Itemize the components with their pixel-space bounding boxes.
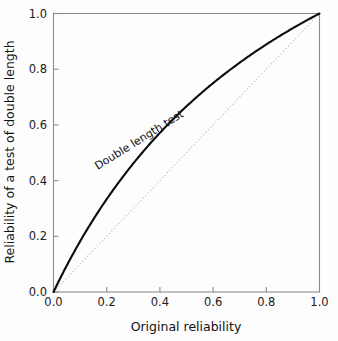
x-tick-label: 0.6 [204,295,222,309]
chart-figure: 0.0 0.2 0.4 0.6 0.8 1.0 0.0 0.2 0.4 0.6 … [0,0,338,341]
y-tick-label: 0.6 [29,118,47,132]
y-tick-label: 0.0 [29,285,47,299]
y-tick-label: 0.2 [29,229,47,243]
y-tick-label: 0.8 [29,62,47,76]
x-tick-label: 0.2 [98,295,116,309]
y-tick-label: 0.4 [29,174,47,188]
x-tick-label: 0.8 [257,295,275,309]
x-tick-labels: 0.0 0.2 0.4 0.6 0.8 1.0 [44,295,328,309]
x-axis-ticks [54,287,320,292]
y-tick-label: 1.0 [29,7,47,21]
y-axis-title: Reliability of a test of double length [2,40,17,263]
plot-area: 0.0 0.2 0.4 0.6 0.8 1.0 0.0 0.2 0.4 0.6 … [0,0,338,341]
curve-annotation-label: Double length test [92,107,186,173]
y-tick-labels: 0.0 0.2 0.4 0.6 0.8 1.0 [29,7,47,300]
y-axis-ticks [54,14,59,293]
x-tick-label: 1.0 [310,295,328,309]
x-axis-title: Original reliability [131,319,242,334]
x-tick-label: 0.0 [44,295,62,309]
identity-reference-line [54,14,320,293]
x-tick-label: 0.4 [151,295,169,309]
